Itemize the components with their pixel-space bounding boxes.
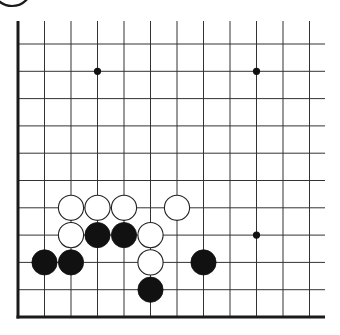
- white-stone: [111, 195, 136, 220]
- white-stone: [164, 195, 189, 220]
- label-circle: [0, 0, 32, 6]
- white-stone: [138, 223, 163, 248]
- star-point: [253, 68, 260, 75]
- board-edges: [17, 21, 326, 319]
- black-stone: [111, 223, 136, 248]
- white-stone: [85, 195, 110, 220]
- black-stone: [32, 250, 57, 275]
- star-point: [94, 68, 101, 75]
- label-circle-arc: [0, 0, 32, 6]
- white-stone: [58, 223, 83, 248]
- black-stone: [191, 250, 216, 275]
- go-board: [0, 0, 340, 335]
- star-point: [253, 232, 260, 239]
- white-stone: [58, 195, 83, 220]
- black-stone: [58, 250, 83, 275]
- white-stone: [138, 250, 163, 275]
- black-stone: [85, 223, 110, 248]
- black-stone: [138, 277, 163, 302]
